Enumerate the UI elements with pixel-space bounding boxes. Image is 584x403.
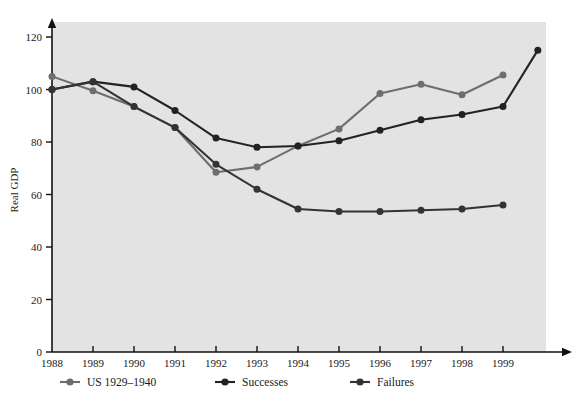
x-tick-label: 1990 (123, 357, 146, 369)
data-point (254, 144, 261, 151)
data-point (459, 91, 466, 98)
y-tick-label: 20 (31, 294, 43, 306)
x-tick-label: 1995 (328, 357, 351, 369)
legend-label: US 1929–1940 (87, 376, 157, 388)
x-tick-label: 1994 (287, 357, 310, 369)
data-point (213, 135, 220, 142)
x-tick-label: 1996 (369, 357, 392, 369)
y-axis-title: Real GDP (8, 168, 20, 213)
x-tick-label: 1988 (41, 357, 64, 369)
y-tick-label: 100 (26, 84, 43, 96)
x-tick-label: 1989 (82, 357, 105, 369)
data-point (418, 207, 425, 214)
data-point (500, 72, 507, 79)
x-tick-label: 1998 (451, 357, 474, 369)
data-point (295, 205, 302, 212)
legend-item-failures[interactable]: Failures (350, 376, 415, 388)
y-axis-ticks: 020406080100120 (26, 31, 53, 358)
y-tick-label: 40 (31, 241, 43, 253)
chart-container: 020406080100120 198819891990199119921993… (0, 0, 584, 403)
data-point (500, 202, 507, 209)
data-point (377, 90, 384, 97)
x-tick-label: 1997 (410, 357, 433, 369)
y-tick-label: 120 (26, 31, 43, 43)
data-point (254, 186, 261, 193)
legend-item-us-1929-1940[interactable]: US 1929–1940 (60, 376, 157, 388)
legend-marker-icon (221, 378, 228, 385)
data-point (90, 87, 97, 94)
legend-marker-icon (66, 378, 73, 385)
data-point (418, 116, 425, 123)
data-point (172, 124, 179, 131)
legend-label: Successes (242, 376, 289, 388)
data-point (213, 161, 220, 168)
x-tick-label: 1993 (246, 357, 269, 369)
data-point (131, 103, 138, 110)
data-point (131, 83, 138, 90)
y-tick-label: 80 (31, 136, 43, 148)
data-point (459, 205, 466, 212)
data-point (49, 86, 56, 93)
line-chart: 020406080100120 198819891990199119921993… (0, 0, 584, 403)
data-point (90, 78, 97, 85)
legend-item-successes[interactable]: Successes (215, 376, 289, 388)
plot-background (52, 22, 546, 352)
data-point (336, 137, 343, 144)
data-point (377, 127, 384, 134)
data-point (418, 81, 425, 88)
data-point (377, 208, 384, 215)
data-point (459, 111, 466, 118)
x-tick-label: 1999 (492, 357, 515, 369)
x-tick-label: 1991 (164, 357, 186, 369)
data-point (295, 142, 302, 149)
data-point (500, 103, 507, 110)
x-tick-label: 1992 (205, 357, 227, 369)
data-point (49, 73, 56, 80)
data-point (336, 125, 343, 132)
chart-legend: US 1929–1940SuccessesFailures (60, 376, 415, 388)
data-point (254, 163, 261, 170)
legend-label: Failures (377, 376, 415, 388)
data-point (336, 208, 343, 215)
legend-marker-icon (356, 378, 363, 385)
data-point (213, 169, 220, 176)
data-point (172, 107, 179, 114)
y-tick-label: 60 (31, 189, 43, 201)
data-point (534, 47, 541, 54)
